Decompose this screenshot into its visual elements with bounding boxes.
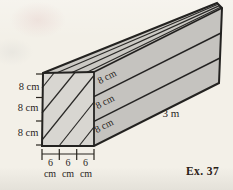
- exercise-caption: Ex. 37: [186, 165, 219, 177]
- width-value-3: 6: [78, 157, 94, 168]
- height-label-3: 8 cm: [13, 127, 43, 139]
- width-unit-3: cm: [76, 168, 96, 179]
- height-label-1: 8 cm: [14, 81, 44, 93]
- width-unit-2: cm: [58, 168, 78, 179]
- width-value-2: 6: [60, 157, 76, 168]
- width-unit-1: cm: [40, 168, 60, 179]
- figure-canvas: 8 cm 8 cm 8 cm 8 cm 8 cm 8 cm 3 m 6 6 6 …: [0, 0, 233, 190]
- height-label-2: 8 cm: [13, 102, 43, 114]
- width-value-1: 6: [43, 157, 59, 168]
- length-label: 3 m: [158, 107, 184, 119]
